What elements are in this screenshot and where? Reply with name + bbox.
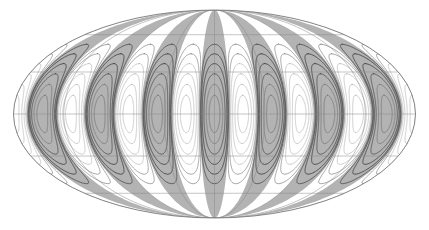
spherical-harmonic-figure xyxy=(0,0,429,230)
contour-plot-canvas xyxy=(0,0,429,230)
